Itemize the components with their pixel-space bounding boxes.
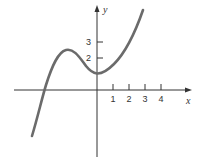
- y-axis-arrow-icon: [95, 5, 100, 12]
- graph: 1 2 3 4 x 2 3 y: [0, 0, 202, 162]
- x-tick-label-2: 2: [127, 94, 132, 104]
- y-tick-label-3: 3: [86, 37, 91, 47]
- x-tick-label-4: 4: [159, 94, 164, 104]
- x-axis-label: x: [185, 95, 191, 106]
- x-axis-arrow-icon: [185, 88, 192, 93]
- x-tick-label-3: 3: [143, 94, 148, 104]
- y-axis-label: y: [102, 4, 108, 15]
- y-tick-label-2: 2: [86, 53, 91, 63]
- y-ticks: [97, 42, 103, 58]
- x-ticks: [113, 84, 161, 90]
- x-tick-label-1: 1: [111, 94, 116, 104]
- function-curve: [32, 10, 143, 136]
